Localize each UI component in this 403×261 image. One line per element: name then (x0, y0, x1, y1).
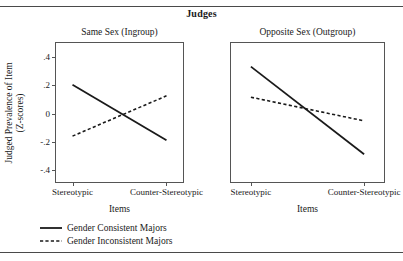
figure-bottom-rule (0, 252, 403, 253)
y-tick-label-0: .4 (43, 52, 50, 62)
x-tick-label-1: Counter-Stereotypic (328, 187, 401, 197)
panel-title-right: Opposite Sex (Outgroup) (207, 27, 403, 37)
legend-label-inconsistent: Gender Inconsistent Majors (67, 236, 173, 246)
y-tick-label-2: 0 (46, 109, 51, 119)
x-tick-0 (73, 182, 74, 186)
x-tick-1 (166, 182, 167, 186)
x-tick-0 (251, 182, 252, 186)
plot-area-right (231, 43, 384, 182)
y-tick-1 (52, 85, 56, 86)
panel-title-left: Same Sex (Ingroup) (32, 27, 207, 37)
figure: Judges Judged Prevalence of Item (Z-scor… (0, 0, 403, 261)
legend-item-consistent: Gender Consistent Majors (40, 221, 173, 234)
y-tick-0 (52, 57, 56, 58)
y-axis-title-line2: (Z-scores) (15, 62, 26, 163)
series-line-consistent (251, 67, 364, 155)
panel-opposite-sex-outgroup: Opposite Sex (Outgroup) StereotypicCount… (230, 42, 385, 183)
legend-label-consistent: Gender Consistent Majors (67, 223, 167, 233)
y-tick-label-1: .2 (43, 80, 50, 90)
panel-same-sex-ingroup: Same Sex (Ingroup) StereotypicCounter-St… (55, 42, 184, 183)
x-tick-label-0: Stereotypic (52, 187, 93, 197)
y-tick-2 (52, 114, 56, 115)
x-axis-title-right: Items (230, 204, 385, 214)
solid-line-icon (40, 224, 62, 232)
figure-title: Judges (0, 8, 403, 19)
x-tick-label-0: Stereotypic (230, 187, 271, 197)
plot-area-left (56, 43, 183, 182)
y-axis-title: Judged Prevalence of Item (Z-scores) (2, 42, 28, 183)
y-axis-title-line1: Judged Prevalence of Item (4, 62, 15, 163)
figure-top-rule (0, 6, 403, 7)
dashed-line-icon (40, 237, 62, 245)
series-line-inconsistent (73, 96, 167, 136)
y-tick-label-4: -.4 (40, 165, 50, 175)
series-line-consistent (73, 85, 167, 141)
y-tick-3 (52, 142, 56, 143)
legend: Gender Consistent Majors Gender Inconsis… (40, 221, 173, 247)
y-tick-label-3: -.2 (40, 137, 50, 147)
y-tick-4 (52, 170, 56, 171)
x-tick-1 (364, 182, 365, 186)
x-axis-title-left: Items (55, 204, 184, 214)
x-tick-label-1: Counter-Stereotypic (130, 187, 203, 197)
series-line-inconsistent (251, 97, 364, 121)
legend-item-inconsistent: Gender Inconsistent Majors (40, 234, 173, 247)
